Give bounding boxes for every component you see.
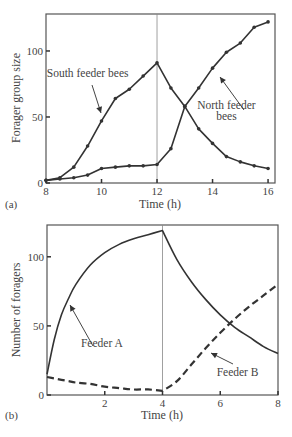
arrowhead-icon <box>220 77 226 84</box>
annotation-label: South feeder bees <box>47 67 129 79</box>
data-point <box>58 177 62 181</box>
data-point <box>127 87 131 91</box>
x-tick-label: 2 <box>102 397 108 409</box>
data-point <box>155 61 159 65</box>
data-point <box>114 165 118 169</box>
data-point <box>197 86 201 90</box>
data-point <box>211 66 215 70</box>
x-tick-label: 6 <box>218 397 224 409</box>
x-tick-label: 10 <box>96 185 108 197</box>
data-point <box>225 50 229 54</box>
data-point <box>114 97 118 101</box>
data-point <box>183 105 187 109</box>
data-point <box>141 164 145 168</box>
panel-b-y-axis-label: Number of foragers <box>9 262 23 357</box>
panel-b-x-axis-label: Time (h) <box>141 408 183 422</box>
y-tick-label: 50 <box>32 111 44 123</box>
panel-b-label: (b) <box>5 409 18 422</box>
annotation-label: Feeder A <box>81 337 124 349</box>
data-point <box>239 41 243 45</box>
data-point <box>197 127 201 131</box>
panel-a-x-axis-label: Time (h) <box>139 197 181 211</box>
data-point <box>72 176 76 180</box>
data-point <box>100 167 104 171</box>
y-tick-label: 50 <box>33 320 45 332</box>
data-point <box>86 144 90 148</box>
data-point <box>127 164 131 168</box>
data-point <box>252 164 256 168</box>
y-tick-label: 0 <box>38 177 44 189</box>
data-point <box>211 142 215 146</box>
data-point <box>169 147 173 151</box>
data-point <box>141 74 145 78</box>
panel-a-y-axis-label: Forager group size <box>9 53 23 143</box>
panel-a-label: (a) <box>5 198 18 211</box>
data-point <box>239 160 243 164</box>
panel-b-chart: 2468050100Feeder AFeeder B <box>28 225 282 409</box>
data-point <box>155 163 159 167</box>
data-point <box>225 155 229 159</box>
data-point <box>100 119 104 123</box>
y-tick-label: 100 <box>28 251 45 263</box>
x-tick-label: 8 <box>275 397 281 409</box>
x-tick-label: 14 <box>207 185 219 197</box>
x-tick-label: 8 <box>43 185 49 197</box>
data-point <box>266 167 270 171</box>
data-point <box>86 173 90 177</box>
x-tick-label: 16 <box>263 185 275 197</box>
x-tick-label: 12 <box>152 185 163 197</box>
data-point <box>266 20 270 24</box>
data-point <box>252 25 256 29</box>
data-point <box>72 165 76 169</box>
figure: 810121416050100South feeder beesNorth fe… <box>0 0 292 437</box>
panel-a-chart: 810121416050100South feeder beesNorth fe… <box>27 14 276 197</box>
data-point <box>44 179 48 183</box>
annotation-label: Feeder B <box>217 366 259 378</box>
y-tick-label: 0 <box>39 389 45 401</box>
annotation-label: bees <box>216 110 237 122</box>
y-tick-label: 100 <box>27 45 44 57</box>
data-point <box>169 86 173 90</box>
